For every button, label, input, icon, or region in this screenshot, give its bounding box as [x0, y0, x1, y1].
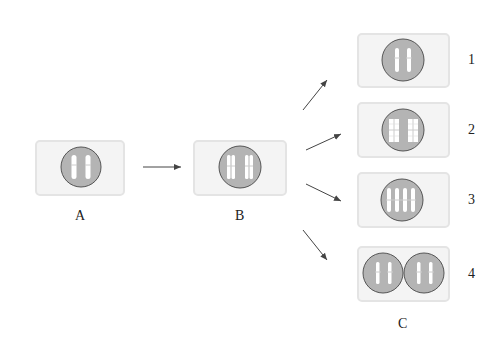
diagram-graphics — [0, 0, 498, 352]
arrow-b-to-4 — [303, 230, 327, 260]
cell-1-nucleus — [382, 39, 424, 81]
arrow-b-to-3 — [306, 184, 341, 201]
label-a: A — [75, 208, 85, 224]
label-4: 4 — [468, 266, 475, 282]
label-b: B — [235, 208, 244, 224]
arrow-b-to-2 — [306, 134, 341, 150]
label-3: 3 — [468, 192, 475, 208]
label-2: 2 — [468, 122, 475, 138]
cell-a-nucleus — [61, 147, 101, 187]
cell-2-nucleus — [382, 109, 424, 151]
label-1: 1 — [468, 52, 475, 68]
cell-b-nucleus — [219, 146, 261, 188]
cell-3-nucleus — [381, 179, 423, 221]
arrow-b-to-1 — [303, 80, 327, 110]
label-c: C — [398, 316, 407, 332]
cell-4-nuclei — [363, 253, 444, 293]
